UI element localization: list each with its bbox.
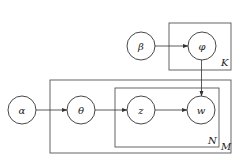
lda-plate-diagram: K M N α θ z w β φ — [0, 0, 247, 166]
plate-k-label: K — [220, 57, 229, 68]
node-beta: β — [127, 32, 155, 60]
node-alpha-label: α — [19, 105, 26, 116]
plate-n-label: N — [207, 135, 218, 146]
node-alpha: α — [8, 96, 36, 124]
node-z: z — [127, 96, 155, 124]
node-phi: φ — [188, 32, 216, 60]
node-w: w — [187, 96, 215, 124]
node-z-label: z — [137, 105, 144, 116]
node-w-label: w — [197, 105, 206, 116]
node-theta-label: θ — [78, 105, 84, 116]
node-beta-label: β — [137, 41, 144, 52]
node-phi-label: φ — [198, 41, 205, 52]
node-theta: θ — [67, 96, 95, 124]
plate-m-label: M — [220, 141, 232, 152]
